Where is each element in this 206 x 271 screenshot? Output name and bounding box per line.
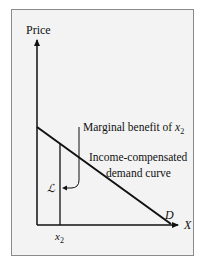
x-axis-label: X <box>183 218 192 232</box>
marginal-benefit-bracket <box>64 127 79 188</box>
curve-end-label: D <box>164 208 174 222</box>
demand-diagram: Price Marginal benefit of x2 Income-comp… <box>0 0 206 271</box>
curve-label-line2: demand curve <box>106 167 171 179</box>
marginal-benefit-label: Marginal benefit of x2 <box>83 121 184 136</box>
area-label: ℒ <box>47 182 56 194</box>
bracket-arrowhead <box>62 186 67 191</box>
y-axis-label: Price <box>26 23 51 37</box>
x2-tick-label: x2 <box>54 230 64 245</box>
curve-label-line1: Income-compensated <box>89 151 188 164</box>
